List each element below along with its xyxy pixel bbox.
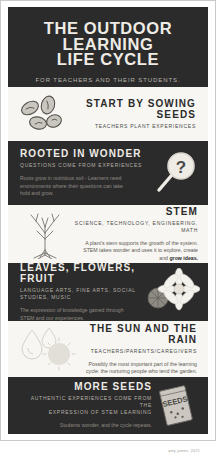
- seed-packet-icon: SEEDS: [152, 382, 200, 430]
- section-rooted-in-wonder: ROOTED IN WONDER QUESTIONS COME FROM EXP…: [8, 141, 208, 205]
- more-seeds-text: MORE SEEDS AUTHENTIC EXPERIENCES COME FR…: [20, 381, 152, 430]
- section-stem: STEM SCIENCE, TECHNOLOGY, ENGINEERING, M…: [8, 205, 208, 263]
- sun-raindrops-icon: [16, 326, 78, 372]
- section-more-seeds: MORE SEEDS AUTHENTIC EXPERIENCES COME FR…: [8, 377, 208, 434]
- sun-and-rain-subtitle: TEACHERS/PARENTS/CAREGIVERS: [78, 348, 197, 355]
- poster-footer: amy james, 2021: [8, 434, 208, 448]
- stem-subtitle: SCIENCE, TECHNOLOGY, ENGINEERING, MATH: [74, 220, 198, 234]
- section-sowing-seeds: START BY SOWING SEEDS TEACHERS PLANT EXP…: [8, 87, 208, 141]
- section-sun-and-rain: THE SUN AND THE RAIN TEACHERS/PARENTS/CA…: [8, 321, 208, 377]
- title-line-3: LIFE CYCLE: [18, 52, 198, 68]
- flower-icon: [144, 268, 200, 316]
- page-title: THE OUTDOOR LEARNING LIFE CYCLE: [18, 21, 198, 68]
- more-seeds-subtitle-line-2: EXPRESSION OF STEM LEARNING: [20, 409, 152, 416]
- rooted-in-wonder-subtitle: QUESTIONS COME FROM EXPERIENCES: [20, 162, 150, 169]
- more-seeds-title: MORE SEEDS: [20, 381, 152, 392]
- rooted-in-wonder-text: ROOTED IN WONDER QUESTIONS COME FROM EXP…: [20, 148, 150, 198]
- plant-roots-icon: [16, 209, 74, 259]
- leaves-flowers-fruit-body: The expression of knowledge gained throu…: [20, 307, 125, 321]
- sowing-seeds-title: START BY SOWING SEEDS: [69, 98, 196, 120]
- leaves-flowers-fruit-title: LEAVES, FLOWERS, FRUIT: [20, 263, 144, 284]
- stem-body-emphasis: grow ideas.: [169, 255, 198, 261]
- seeds-icon: [17, 93, 69, 135]
- magnifying-glass-question-icon: ?: [150, 148, 200, 198]
- section-leaves-flowers-fruit: LEAVES, FLOWERS, FRUIT LANGUAGE ARTS, FI…: [8, 263, 208, 321]
- page-subtitle: FOR TEACHERS AND THEIR STUDENTS.: [18, 77, 198, 83]
- more-seeds-subtitle-line-1: AUTHENTIC EXPERIENCES COME FROM THE: [20, 395, 152, 409]
- leaves-flowers-fruit-text: LEAVES, FLOWERS, FRUIT LANGUAGE ARTS, FI…: [20, 263, 144, 321]
- stem-body: A plant's stem supports the growth of th…: [74, 240, 198, 263]
- rooted-in-wonder-body: Roots grow in nutritious soil - Learners…: [20, 175, 128, 198]
- sun-and-rain-body: Possibly the most important part of the …: [78, 361, 197, 376]
- sowing-seeds-text: START BY SOWING SEEDS TEACHERS PLANT EXP…: [69, 98, 196, 130]
- more-seeds-body: Students wonder, and the cycle repeats.: [20, 422, 152, 430]
- sun-and-rain-text: THE SUN AND THE RAIN TEACHERS/PARENTS/CA…: [78, 323, 197, 376]
- credit-text: amy james, 2021: [168, 449, 200, 453]
- leaves-flowers-fruit-subtitle: LANGUAGE ARTS, FINE ARTS, SOCIAL STUDIES…: [20, 287, 144, 301]
- poster-header: THE OUTDOOR LEARNING LIFE CYCLE FOR TEAC…: [8, 7, 208, 87]
- stem-text: STEM SCIENCE, TECHNOLOGY, ENGINEERING, M…: [74, 206, 198, 263]
- sowing-seeds-subtitle: TEACHERS PLANT EXPERIENCES: [69, 123, 196, 130]
- svg-text:?: ?: [176, 158, 186, 177]
- stem-title: STEM: [74, 206, 198, 217]
- rooted-in-wonder-title: ROOTED IN WONDER: [20, 148, 150, 159]
- sun-and-rain-title: THE SUN AND THE RAIN: [78, 323, 197, 345]
